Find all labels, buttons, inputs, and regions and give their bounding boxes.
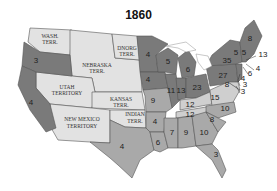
svg-text:35: 35 bbox=[223, 56, 232, 65]
svg-text:12: 12 bbox=[186, 110, 195, 119]
svg-text:9: 9 bbox=[184, 128, 189, 137]
svg-text:3: 3 bbox=[34, 56, 39, 65]
svg-text:TERR.: TERR. bbox=[42, 39, 58, 45]
svg-text:4: 4 bbox=[120, 142, 125, 151]
iowa bbox=[140, 72, 168, 90]
svg-text:12: 12 bbox=[186, 100, 195, 109]
svg-text:7: 7 bbox=[170, 128, 175, 137]
svg-text:5: 5 bbox=[234, 48, 239, 57]
svg-text:INDIAN: INDIAN bbox=[125, 111, 145, 117]
svg-text:13: 13 bbox=[259, 50, 268, 59]
svg-text:27: 27 bbox=[219, 71, 228, 80]
svg-text:TERR.: TERR. bbox=[113, 102, 129, 108]
svg-text:6: 6 bbox=[248, 69, 253, 78]
svg-text:TERR.: TERR. bbox=[119, 51, 135, 57]
svg-text:TERR.: TERR. bbox=[89, 68, 105, 74]
svg-text:11: 11 bbox=[167, 86, 176, 95]
svg-text:9: 9 bbox=[151, 96, 156, 105]
svg-text:5: 5 bbox=[166, 57, 171, 66]
florida bbox=[196, 144, 226, 178]
svg-text:3: 3 bbox=[214, 150, 219, 159]
svg-text:3: 3 bbox=[241, 87, 246, 96]
svg-text:4: 4 bbox=[29, 98, 34, 107]
svg-text:TERR.: TERR. bbox=[127, 118, 143, 124]
svg-text:TERRITORY: TERRITORY bbox=[67, 123, 97, 129]
svg-text:6: 6 bbox=[156, 138, 161, 147]
svg-text:TERRITORY: TERRITORY bbox=[52, 90, 82, 96]
svg-text:13: 13 bbox=[177, 86, 186, 95]
us-map-1860: WASH.TERR. DNORGTERR. NEBRASKATERR. UTAH… bbox=[0, 0, 277, 191]
svg-text:10: 10 bbox=[221, 104, 230, 113]
svg-text:5: 5 bbox=[242, 48, 247, 57]
svg-text:8: 8 bbox=[248, 34, 253, 43]
svg-text:NEW MEXICO: NEW MEXICO bbox=[64, 116, 100, 122]
svg-text:4: 4 bbox=[146, 50, 151, 59]
svg-text:4: 4 bbox=[153, 117, 158, 126]
svg-text:23: 23 bbox=[193, 83, 202, 92]
svg-text:10: 10 bbox=[200, 128, 209, 137]
svg-text:4: 4 bbox=[256, 64, 261, 73]
svg-text:6: 6 bbox=[186, 65, 191, 74]
svg-text:15: 15 bbox=[211, 93, 220, 102]
svg-text:8: 8 bbox=[225, 80, 230, 89]
svg-text:8: 8 bbox=[210, 115, 215, 124]
svg-text:4: 4 bbox=[146, 75, 151, 84]
